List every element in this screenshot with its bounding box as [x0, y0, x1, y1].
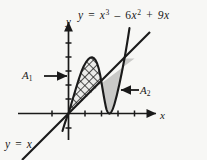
region-a1-label-base: A — [22, 69, 29, 81]
region-a1-label: A1 — [22, 70, 32, 83]
curve-eq-equals: = — [87, 9, 96, 21]
line-y-equals-x — [22, 32, 150, 160]
region-a2-label-subscript: 2 — [147, 89, 151, 98]
y-axis — [66, 22, 72, 140]
curve-eq-lhs: y — [78, 9, 84, 21]
curve-eq-term3: 9x — [158, 9, 170, 21]
math-figure: y = x3 – 6x2 + 9x y = x y x A1 A2 — [0, 0, 207, 160]
curve-eq-minus: – — [113, 9, 121, 21]
y-axis-label: y — [66, 16, 71, 27]
curve-eq-term1: x3 — [100, 9, 110, 21]
line-eq-rhs: x — [27, 138, 33, 150]
line-equation-label: y = x — [5, 139, 33, 151]
curve-eq-term2: 6x2 — [125, 9, 141, 21]
region-a1-label-subscript: 1 — [29, 74, 33, 83]
line-eq-equals: = — [14, 138, 23, 150]
curve-equation-label: y = x3 – 6x2 + 9x — [78, 9, 170, 22]
x-axis — [18, 111, 156, 117]
region-a2-label-base: A — [140, 84, 147, 96]
curve-eq-term1-exponent: 3 — [106, 8, 110, 17]
x-axis-label: x — [160, 110, 165, 121]
region-a2-label: A2 — [140, 85, 150, 98]
curve-eq-term2-exponent: 2 — [137, 8, 141, 17]
curve-eq-plus: + — [145, 9, 154, 21]
line-eq-lhs: y — [5, 138, 11, 150]
